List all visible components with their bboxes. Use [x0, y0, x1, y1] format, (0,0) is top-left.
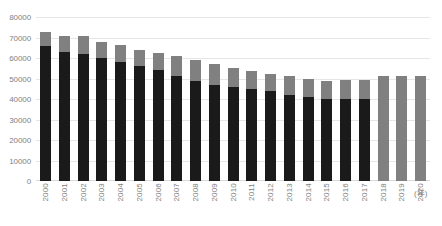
x-axis-tick: 2017: [359, 183, 370, 202]
plot-area: [36, 17, 430, 181]
bar-segment-upper: [209, 64, 220, 85]
bar-segment-upper: [396, 76, 407, 181]
x-axis-tick: 2003: [96, 183, 107, 202]
x-axis-tick-label: 2005: [135, 183, 144, 202]
x-axis-tick: 2018: [378, 183, 389, 202]
bar-segment-upper: [284, 76, 295, 94]
bar-segment-lower: [340, 99, 351, 181]
bar-segment-lower: [96, 58, 107, 181]
bar-segment-upper: [96, 42, 107, 58]
x-axis-tick: 2004: [115, 183, 126, 202]
bar-segment-lower: [134, 66, 145, 181]
bar-group: [209, 17, 220, 181]
bar-segment-upper: [265, 74, 276, 90]
x-axis-tick-label: 2013: [285, 183, 294, 202]
x-axis-tick: 2010: [228, 183, 239, 202]
x-axis-tick: 2002: [78, 183, 89, 202]
x-axis-tick: 2012: [265, 183, 276, 202]
bar-group: [153, 17, 164, 181]
bar-segment-upper: [115, 45, 126, 62]
x-axis-tick-label: 2007: [172, 183, 181, 202]
bar-segment-lower: [321, 99, 332, 181]
bar-segment-lower: [228, 87, 239, 181]
bar-group: [265, 17, 276, 181]
bar-segment-upper: [340, 80, 351, 99]
x-axis-tick-label: 2014: [304, 183, 313, 202]
y-axis-tick: 70000: [9, 33, 31, 42]
bar-segment-upper: [228, 68, 239, 86]
bar-segment-upper: [378, 76, 389, 181]
x-axis-tick-label: 2000: [41, 183, 50, 202]
bar-segment-upper: [78, 36, 89, 53]
bar-group: [228, 17, 239, 181]
bar-group: [171, 17, 182, 181]
bar-segment-lower: [284, 95, 295, 181]
bar-segment-lower: [59, 52, 70, 181]
x-axis-tick-label: 2017: [360, 183, 369, 202]
bar-segment-lower: [303, 97, 314, 181]
x-axis-tick-label: 2016: [341, 183, 350, 202]
x-axis-tick: 2007: [171, 183, 182, 202]
bar-segment-lower: [115, 62, 126, 181]
bar-segment-lower: [265, 91, 276, 181]
y-axis-tick: 0: [27, 177, 31, 186]
x-axis-tick-label: 2010: [229, 183, 238, 202]
bar-group: [340, 17, 351, 181]
x-axis-tick-label: 2012: [266, 183, 275, 202]
x-axis-tick: 2013: [284, 183, 295, 202]
bar-group: [396, 17, 407, 181]
y-axis-tick: 30000: [9, 115, 31, 124]
bar-group: [303, 17, 314, 181]
x-axis-tick: 2014: [303, 183, 314, 202]
bar-segment-upper: [134, 50, 145, 66]
bar-segment-lower: [40, 46, 51, 181]
bar-group: [415, 17, 426, 181]
x-axis-tick: 2008: [190, 183, 201, 202]
bar-segment-upper: [321, 81, 332, 99]
bar-group: [96, 17, 107, 181]
x-axis-tick: 2000: [40, 183, 51, 202]
y-axis-tick: 20000: [9, 136, 31, 145]
bar-group: [321, 17, 332, 181]
x-axis-tick: 2006: [153, 183, 164, 202]
x-axis-tick: 2011: [246, 183, 257, 201]
stacked-bar-chart: 80000 70000 60000 50000 40000 30000 2000…: [0, 0, 442, 226]
bar-segment-upper: [415, 76, 426, 181]
bar-group: [115, 17, 126, 181]
x-axis-tick: 2016: [340, 183, 351, 202]
bar-group: [359, 17, 370, 181]
y-axis-tick: 50000: [9, 74, 31, 83]
x-axis-unit-label: (年): [414, 187, 427, 198]
bar-segment-upper: [40, 32, 51, 45]
bar-segment-upper: [303, 79, 314, 97]
bar-group: [59, 17, 70, 181]
x-axis-tick: 2009: [209, 183, 220, 202]
bar-segment-upper: [359, 80, 370, 99]
bar-segment-lower: [171, 76, 182, 181]
x-axis-tick: 2015: [321, 183, 332, 202]
x-axis-tick-label: 2019: [397, 183, 406, 202]
bar-group: [284, 17, 295, 181]
x-axis: 2000200120022003200420052006200720082009…: [36, 183, 430, 226]
y-axis-tick: 80000: [9, 13, 31, 22]
x-axis-tick-label: 2018: [379, 183, 388, 202]
y-axis-tick: 10000: [9, 156, 31, 165]
y-axis-tick: 40000: [9, 95, 31, 104]
x-axis-tick-label: 2004: [116, 183, 125, 202]
bar-segment-upper: [59, 36, 70, 51]
x-axis-tick-label: 2001: [60, 183, 69, 202]
bar-group: [246, 17, 257, 181]
x-axis-tick-label: 2006: [154, 183, 163, 202]
bar-group: [78, 17, 89, 181]
y-axis-tick: 60000: [9, 54, 31, 63]
bar-segment-lower: [153, 70, 164, 181]
bar-group: [134, 17, 145, 181]
bar-segment-lower: [78, 54, 89, 181]
bar-segment-lower: [209, 85, 220, 181]
bar-series-container: [36, 17, 430, 181]
y-axis: 80000 70000 60000 50000 40000 30000 2000…: [0, 0, 36, 226]
bar-segment-lower: [246, 89, 257, 181]
x-axis-tick-label: 2015: [322, 183, 331, 202]
bar-segment-upper: [171, 56, 182, 77]
x-axis-tick-label: 2003: [97, 183, 106, 202]
